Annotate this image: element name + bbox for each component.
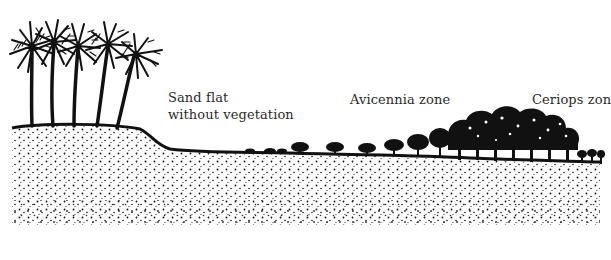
avicennia-zone-label-text: Avicennia zone xyxy=(350,91,450,108)
sand-flat-label: Sand flat without vegetation xyxy=(168,89,294,123)
avicennia-zone-label: Avicennia zone xyxy=(350,91,450,108)
palm-trees xyxy=(10,20,162,128)
sand-flat-label-line2: without vegetation xyxy=(168,106,294,123)
ceriops-canopy xyxy=(448,106,605,164)
ceriops-zone-label: Ceriops zon xyxy=(532,91,611,108)
sand-flat-label-line1: Sand flat xyxy=(168,89,294,106)
ceriops-zone-label-text: Ceriops zon xyxy=(532,91,611,108)
